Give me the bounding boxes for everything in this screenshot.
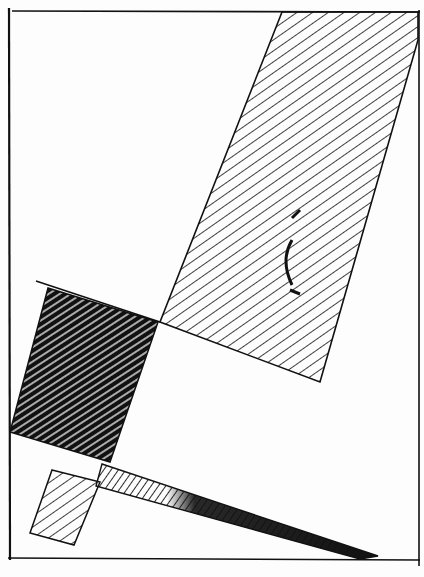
artwork-canvas: [0, 0, 424, 577]
long-diagonal-bar: [96, 464, 378, 559]
large-parallelogram: [160, 12, 418, 382]
frame-left: [9, 8, 10, 560]
small-square: [30, 470, 100, 545]
